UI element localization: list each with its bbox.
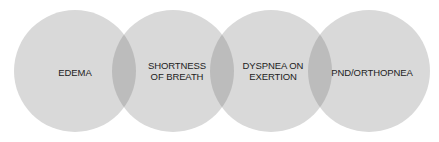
label-edema: EDEMA [35, 67, 115, 78]
label-shortness-of-breath: SHORTNESS OF BREATH [143, 60, 211, 82]
label-pnd-orthopnea: PND/ORTHOPNEA [327, 67, 417, 78]
label-dyspnea-on-exertion: DYSPNEA ON EXERTION [241, 60, 305, 82]
